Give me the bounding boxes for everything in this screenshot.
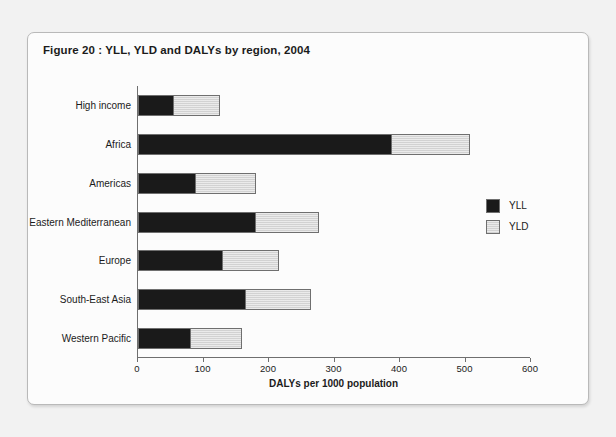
bar-segment-yll [138, 250, 222, 271]
x-tick-label: 200 [260, 363, 276, 374]
bar-segment-yll [138, 95, 173, 116]
category-label: Africa [105, 134, 131, 155]
bar-segment-yld [245, 289, 311, 310]
x-tick-label: 100 [195, 363, 211, 374]
bar-segment-yld [222, 250, 279, 271]
x-tick-mark [399, 358, 400, 362]
bar-segment-yld [173, 95, 220, 116]
bar-segment-yld [190, 328, 242, 349]
x-tick-label: 500 [457, 363, 473, 374]
x-tick-label: 600 [522, 363, 538, 374]
category-axis-labels: High incomeAfricaAmericasEastern Mediter… [28, 86, 131, 358]
legend-item[interactable]: YLD [486, 217, 528, 236]
bar-segment-yld [391, 134, 470, 155]
x-tick-mark [334, 358, 335, 362]
bar-segment-yld [255, 212, 319, 233]
x-tick-mark [268, 358, 269, 362]
x-tick-mark [137, 358, 138, 362]
bar-segment-yll [138, 328, 190, 349]
category-label: Europe [99, 250, 131, 271]
x-tick-label: 0 [134, 363, 139, 374]
bar-segment-yll [138, 173, 195, 194]
chart-legend: YLLYLD [486, 196, 528, 238]
x-tick-label: 400 [391, 363, 407, 374]
category-label: High income [75, 95, 131, 116]
legend-swatch-yld [486, 220, 500, 234]
x-tick-mark [530, 358, 531, 362]
bar-segment-yll [138, 134, 391, 155]
bar-segment-yll [138, 212, 255, 233]
chart-area: High incomeAfricaAmericasEastern Mediter… [28, 33, 590, 406]
plot-area [137, 86, 530, 358]
x-axis-title: DALYs per 1000 population [137, 378, 530, 389]
x-tick-label: 300 [326, 363, 342, 374]
legend-label: YLL [509, 200, 527, 211]
legend-item[interactable]: YLL [486, 196, 528, 215]
category-label: Western Pacific [62, 328, 131, 349]
category-label: South-East Asia [60, 289, 131, 310]
x-axis-ticks: 0100200300400500600 [137, 358, 531, 378]
legend-swatch-yll [486, 199, 500, 213]
category-label: Eastern Mediterranean [29, 212, 131, 233]
bar-segment-yll [138, 289, 245, 310]
x-tick-mark [203, 358, 204, 362]
figure-panel: Figure 20 : YLL, YLD and DALYs by region… [27, 32, 589, 405]
x-tick-mark [465, 358, 466, 362]
legend-label: YLD [509, 221, 528, 232]
bar-segment-yld [195, 173, 256, 194]
category-label: Americas [89, 173, 131, 194]
